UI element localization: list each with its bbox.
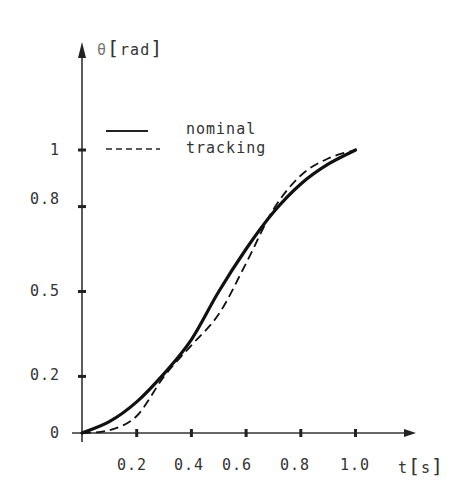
x-tick-label: 1.0 xyxy=(340,456,370,474)
x-tick-label: 0.4 xyxy=(174,456,204,474)
legend xyxy=(106,131,160,149)
x-tick-label: 0.8 xyxy=(280,456,310,474)
y-tick-label: 0.8 xyxy=(20,190,60,208)
y-tick-label: 0.5 xyxy=(20,282,60,300)
y-axis-unit: rad xyxy=(120,41,150,59)
axes xyxy=(72,56,404,442)
y-axis-arrow-icon xyxy=(78,42,86,58)
y-axis-symbol: θ xyxy=(97,41,107,59)
bracket-open: [ xyxy=(107,36,120,60)
line-chart xyxy=(0,0,461,502)
legend-label-nominal: nominal xyxy=(186,120,256,138)
y-tick-label: 0.2 xyxy=(20,366,60,384)
x-axis-symbol: t xyxy=(398,459,408,477)
legend-label-tracking: tracking xyxy=(186,139,266,157)
bracket-close: ] xyxy=(150,36,163,60)
x-tick-label: 0.6 xyxy=(222,456,252,474)
y-tick-label: 1 xyxy=(20,141,60,159)
series-nominal-line xyxy=(82,150,356,433)
x-axis-arrow-icon xyxy=(404,429,416,437)
bracket-close: ] xyxy=(431,454,444,478)
y-tick-label: 0 xyxy=(20,424,60,442)
x-axis-unit: s xyxy=(421,459,431,477)
bracket-open: [ xyxy=(408,454,421,478)
x-tick-label: 0.2 xyxy=(117,456,147,474)
y-axis-title: θ[rad] xyxy=(97,36,163,60)
x-axis-title: t[s] xyxy=(398,454,444,478)
